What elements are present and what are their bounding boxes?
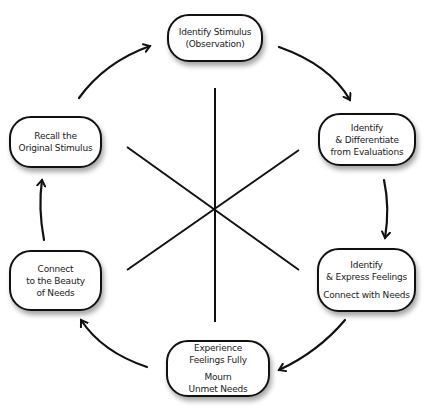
node-recall-stimulus: Recall the Original Stimulus (9, 116, 102, 168)
node-label-line: Recall the (34, 130, 76, 142)
node-label-line: Identify Stimulus (179, 26, 252, 38)
node-label-line: Experience (194, 342, 242, 354)
center-spokes (127, 88, 299, 322)
node-label-line: Connect (38, 263, 74, 275)
node-label-line: Unmet Needs (189, 383, 248, 395)
node-experience-feelings: Experience Feelings Fully Mourn Unmet Ne… (166, 340, 270, 397)
node-identify-stimulus: Identify Stimulus (Observation) (167, 14, 263, 62)
node-label-line: (Observation) (185, 38, 244, 50)
node-differentiate-evaluations: Identify & Differentiate from Evaluation… (318, 113, 416, 166)
node-label-line: & Differentiate (335, 134, 399, 146)
arrow-n1-to-n2 (279, 47, 350, 100)
node-label-line: & Express Feelings (326, 271, 407, 283)
node-label-line: Feelings Fully (189, 354, 247, 366)
arrow-n6-to-n1 (79, 46, 150, 98)
node-beauty-of-needs: Connect to the Beauty of Needs (9, 250, 102, 311)
node-label-line: to the Beauty (26, 275, 85, 287)
node-label-line: Original Stimulus (19, 142, 93, 154)
arrow-n4-to-n5 (81, 320, 147, 367)
node-label-line: Connect with Needs (323, 289, 410, 301)
arrow-n2-to-n3 (384, 180, 387, 238)
arrow-n5-to-n6 (40, 180, 44, 240)
node-label-line: of Needs (36, 287, 74, 299)
node-label-line: Identify (350, 259, 382, 271)
node-label-line: Identify (351, 122, 383, 134)
node-label-line: Mourn (204, 371, 231, 383)
arrow-n3-to-n4 (279, 320, 345, 370)
node-label-line: from Evaluations (331, 146, 404, 158)
node-express-feelings: Identify & Express Feelings Connect with… (317, 248, 416, 312)
